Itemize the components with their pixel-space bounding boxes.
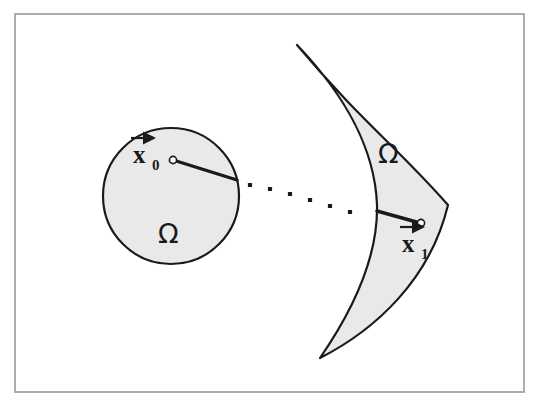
trajectory-dot: [248, 183, 252, 187]
figure-container: x 0 x 1 Ω Ω: [0, 0, 540, 407]
label-omega-right: Ω: [378, 138, 399, 169]
trajectory-dot: [308, 198, 312, 202]
trajectory-dot: [328, 204, 332, 208]
label-omega-left: Ω: [158, 218, 179, 249]
label-x1-base: x: [402, 230, 415, 257]
label-x1-subscript: 1: [421, 246, 429, 262]
figure-canvas: x 0 x 1 Ω Ω: [0, 0, 540, 407]
trajectory-dot: [348, 210, 352, 214]
label-x0-subscript: 0: [152, 157, 160, 173]
point-x1-marker: [417, 219, 424, 226]
page-background: [0, 0, 540, 407]
trajectory-dot: [268, 187, 272, 191]
point-x0-marker: [169, 156, 176, 163]
label-x0-base: x: [133, 141, 146, 168]
trajectory-dot: [288, 192, 292, 196]
